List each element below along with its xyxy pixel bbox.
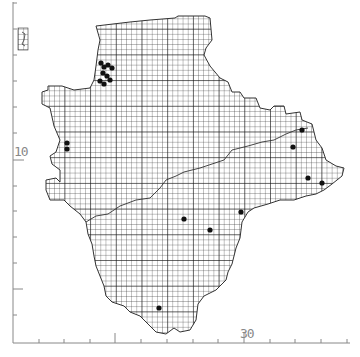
- record-dot: [319, 180, 324, 185]
- x-axis-label-30: 30: [240, 326, 254, 341]
- record-dot: [290, 144, 295, 149]
- record-dot: [305, 175, 310, 180]
- record-dot: [181, 216, 186, 221]
- y-axis-label-10: 10: [14, 144, 28, 159]
- record-dot: [109, 65, 114, 70]
- record-dot: [64, 140, 69, 145]
- record-dot: [156, 305, 161, 310]
- record-dot: [299, 127, 304, 132]
- island-inset: [18, 28, 28, 50]
- record-dot: [101, 81, 106, 86]
- record-dot: [107, 77, 112, 82]
- distribution-map: [0, 0, 360, 357]
- record-dot: [64, 146, 69, 151]
- record-dot: [238, 209, 243, 214]
- record-dot: [207, 227, 212, 232]
